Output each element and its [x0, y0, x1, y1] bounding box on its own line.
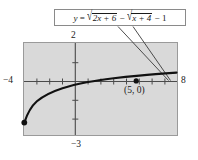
y-axis-min-label: −3 — [71, 140, 81, 150]
equation-text: y = √2x + 6 − √x + 4 − 1 — [74, 13, 167, 23]
plot-area — [23, 42, 178, 136]
figure-screenshot: y = √2x + 6 − √x + 4 − 1 2 −3 −4 8 (5, 0… — [0, 0, 198, 160]
x-axis-max-label: 8 — [181, 76, 186, 86]
x-intercept-label: (5, 0) — [124, 86, 145, 96]
equation-callout-box: y = √2x + 6 − √x + 4 − 1 — [54, 9, 186, 26]
radicand-1: 2x + 6 — [92, 13, 118, 23]
y-axis-max-label: 2 — [71, 31, 76, 41]
x-axis-min-label: −4 — [3, 76, 13, 86]
equation-constant: 1 — [162, 13, 167, 23]
radicand-2: x + 4 — [131, 13, 152, 23]
radical-term-2: √x + 4 — [127, 13, 153, 23]
radical-term-1: √2x + 6 — [87, 13, 117, 23]
